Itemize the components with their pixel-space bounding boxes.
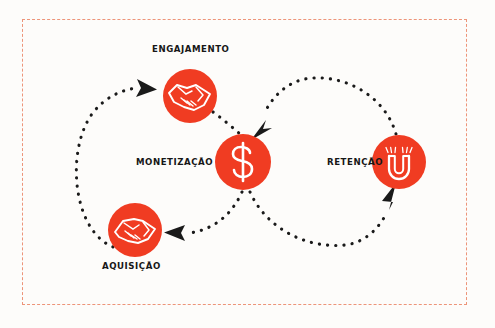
node-label-retencao: RETENÇÃO (327, 158, 383, 167)
node-monetizacao[interactable] (215, 134, 271, 190)
diagram-canvas: ENGAJAMENTO MONETIZAÇÃO AQUISIÇÃO RETENÇ… (0, 0, 495, 328)
node-aquisicao[interactable] (108, 203, 162, 257)
connector-monetizacao-to-aquisicao (190, 192, 242, 233)
connector-engajamento-to-monetizacao (213, 112, 240, 134)
node-label-monetizacao: MONETIZAÇÃO (136, 158, 213, 167)
arrowhead-engajamento (136, 79, 157, 97)
connector-retencao-to-monetizacao (266, 78, 396, 134)
node-label-aquisicao: AQUISIÇÃO (102, 262, 161, 271)
arrowhead-aquisicao (164, 225, 185, 241)
diagram-graphic (0, 0, 495, 328)
node-label-engajamento: ENGAJAMENTO (152, 45, 229, 54)
node-engajamento[interactable] (163, 69, 217, 123)
connector-monetizacao-to-retencao (250, 192, 385, 245)
